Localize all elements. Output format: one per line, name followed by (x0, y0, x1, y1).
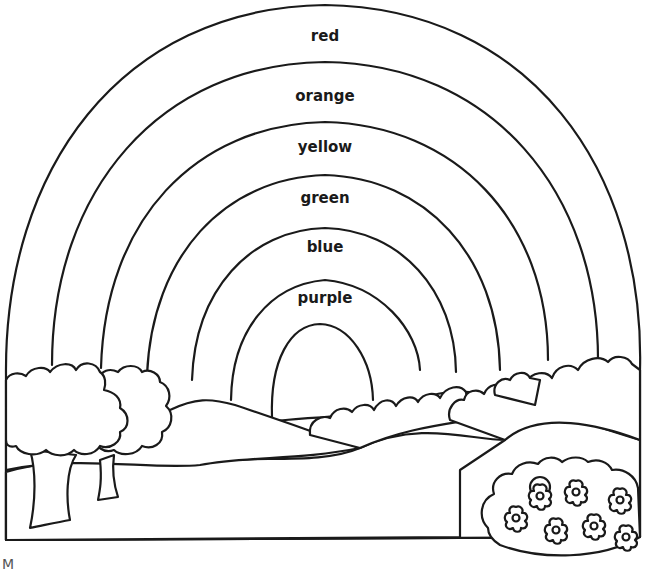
corner-text: M (2, 556, 14, 569)
flower-icon (609, 488, 631, 513)
band-label-red: red (311, 27, 339, 45)
flower-icon (615, 525, 637, 550)
flower-layer (0, 0, 650, 569)
band-label-purple: purple (298, 289, 353, 307)
band-label-blue: blue (307, 238, 344, 256)
flower-icon (583, 514, 605, 539)
flower-icon (505, 506, 527, 531)
flower-icon (529, 484, 551, 509)
flower-icon (565, 480, 587, 505)
band-label-green: green (300, 189, 349, 207)
flower-icon (545, 518, 567, 543)
band-label-yellow: yellow (298, 138, 352, 156)
band-label-orange: orange (295, 87, 354, 105)
